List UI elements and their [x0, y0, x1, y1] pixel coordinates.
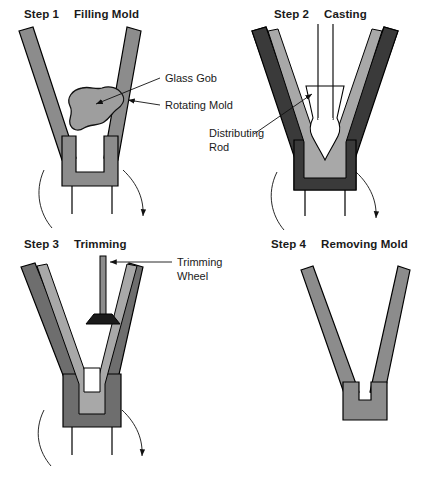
- trimming-wheel-shaft: [100, 256, 106, 322]
- step-2-title: Casting: [324, 8, 367, 20]
- step-3-label: Step 3: [24, 238, 59, 250]
- step-1-label: Step 1: [24, 8, 60, 20]
- process-diagram: Step 1 Filling Mold Glass Gob Rotating M…: [0, 0, 434, 480]
- step-2-label: Step 2: [274, 8, 309, 20]
- callout-rotating-mold: Rotating Mold: [165, 99, 233, 111]
- callout-distributing-rod-line2: Rod: [209, 141, 229, 153]
- step-1-title: Filling Mold: [74, 8, 139, 20]
- callout-glass-gob: Glass Gob: [165, 72, 217, 84]
- trim-notch: [84, 368, 100, 392]
- glass-forming-diagram: Step 1 Filling Mold Glass Gob Rotating M…: [0, 0, 434, 480]
- callout-trimming-wheel-line2: Wheel: [177, 270, 208, 282]
- step-3-title: Trimming: [74, 238, 127, 250]
- step-4-label: Step 4: [271, 238, 307, 250]
- callout-trimming-wheel-line1: Trimming: [177, 256, 222, 268]
- step-4-title: Removing Mold: [321, 238, 408, 250]
- callout-distributing-rod-line1: Distributing: [209, 127, 264, 139]
